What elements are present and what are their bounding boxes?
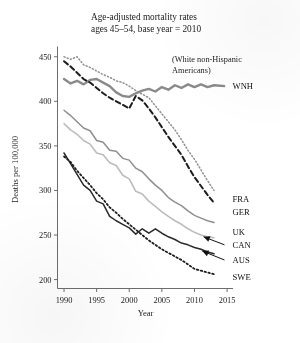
y-axis-label: Deaths per 100,000 [10, 136, 20, 203]
series-label-aus: AUS [233, 255, 250, 265]
series-label-ger: GER [233, 207, 250, 217]
x-tick-label: 1990 [56, 296, 73, 305]
x-axis-label: Year [138, 308, 154, 318]
x-tick-label: 2005 [153, 296, 170, 305]
y-tick-label: 250 [39, 231, 52, 240]
mortality-rates-chart: Age-adjusted mortality ratesages 45–54, … [0, 0, 300, 343]
series-line-wnh [64, 79, 214, 97]
series-line-aus [64, 153, 214, 254]
x-tick-label: 1995 [88, 296, 105, 305]
x-tick-label: 2015 [219, 296, 236, 305]
series-line-swe [64, 157, 214, 275]
chart-title: Age-adjusted mortality rates [91, 12, 197, 22]
series-label-swe: SWE [233, 272, 251, 282]
chart-subtitle: ages 45–54, base year = 2010 [91, 24, 201, 34]
wnh-annotation-line: (White non-Hispanic [172, 55, 242, 64]
y-tick-label: 400 [39, 97, 52, 106]
series-label-wnh: WNH [233, 81, 254, 91]
x-tick-label: 2000 [121, 296, 138, 305]
y-tick-label: 300 [39, 186, 52, 195]
series-label-uk: UK [233, 227, 246, 237]
y-tick-label: 450 [39, 53, 52, 62]
y-tick-label: 200 [39, 276, 52, 285]
leader-line-wnh [214, 85, 225, 86]
x-tick-label: 2010 [186, 296, 203, 305]
y-tick-label: 350 [39, 142, 52, 151]
series-label-fra: FRA [233, 194, 251, 204]
series-label-can: CAN [233, 240, 252, 250]
wnh-annotation-line: Americans) [172, 66, 211, 75]
series-line-uk [64, 110, 214, 222]
chart-svg: Age-adjusted mortality ratesages 45–54, … [0, 0, 300, 343]
